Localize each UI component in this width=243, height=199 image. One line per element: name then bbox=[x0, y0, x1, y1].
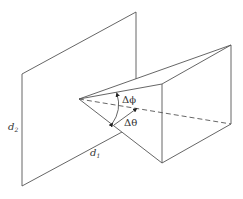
wedge bbox=[79, 45, 231, 163]
delta-phi-label: Δϕ bbox=[122, 94, 136, 105]
beam-wedge-diagram: Δϕ Δθ d2 d1 bbox=[0, 0, 243, 199]
delta-theta-label: Δθ bbox=[124, 117, 137, 128]
diagram-canvas: Δϕ Δθ d2 d1 bbox=[0, 0, 243, 199]
d2-label: d2 bbox=[8, 121, 18, 133]
d1-label: d1 bbox=[90, 147, 100, 159]
